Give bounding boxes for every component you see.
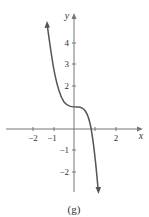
figure-caption: (g)	[68, 203, 81, 216]
y-tick-label: −1	[59, 145, 69, 155]
curve-line	[48, 27, 99, 188]
y-axis: 4 3 2 −1 −2 y	[59, 10, 76, 192]
y-tick-label: 3	[65, 59, 70, 69]
x-tick-label: 2	[114, 133, 119, 143]
chart-figure: −2 −1 2 x 4 3 2 −1 −2 y (g)	[0, 0, 149, 217]
y-axis-arrow-icon	[72, 13, 77, 19]
x-axis-label: x	[138, 130, 144, 141]
y-axis-label: y	[64, 10, 70, 21]
x-axis: −2 −1 2 x	[6, 127, 144, 144]
curve-series	[45, 21, 102, 194]
y-tick-label: −2	[59, 167, 69, 177]
y-tick-label: 4	[65, 38, 70, 48]
curve-arrow-up-icon	[45, 21, 51, 28]
y-tick-label: 2	[65, 81, 70, 91]
x-tick-label: −2	[28, 133, 38, 143]
x-tick-label: −1	[47, 133, 57, 143]
curve-arrow-down-icon	[96, 187, 102, 194]
